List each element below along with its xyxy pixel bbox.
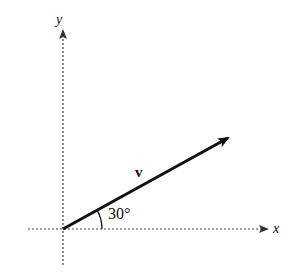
vector-label: v — [135, 164, 143, 181]
x-axis-label: x — [273, 221, 279, 237]
vector-diagram: y x v 30° — [0, 0, 291, 275]
y-axis-label: y — [56, 12, 62, 28]
angle-arc — [97, 210, 102, 230]
angle-label: 30° — [108, 205, 130, 223]
diagram-svg — [0, 0, 291, 275]
vector-v — [63, 138, 228, 229]
